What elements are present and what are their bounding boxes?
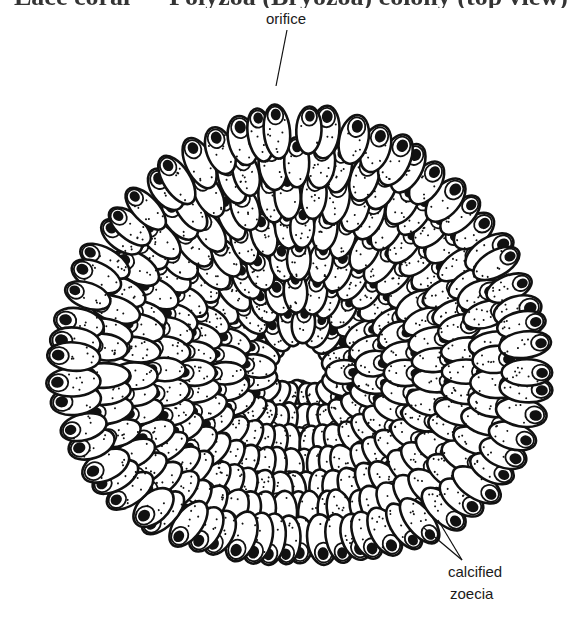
calcified-label: calcified [448, 563, 502, 581]
zoecia-label: zoecia [450, 585, 493, 603]
orifice-opening [536, 368, 548, 378]
zooecium [502, 359, 553, 385]
orifice-leader-line [276, 30, 287, 86]
colony-illustration [0, 0, 587, 624]
orifice-label: orifice [266, 10, 306, 28]
zooecium [295, 106, 322, 154]
zooecia-group [46, 103, 554, 567]
bryozoan-colony-diagram: Lace coral — Polyzoa (Bryozoa) colony (t… [0, 0, 587, 624]
